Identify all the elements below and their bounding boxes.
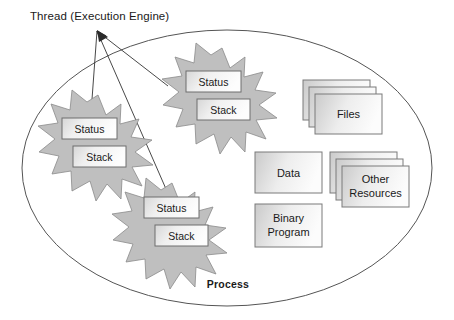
stack-box-label: Stack — [168, 230, 195, 242]
stack-box-label: Stack — [210, 104, 237, 116]
binary-program-label-line2: Program — [267, 226, 309, 238]
resource-other-resources: Other Resources — [330, 152, 409, 207]
resource-files: Files — [303, 80, 382, 134]
status-box-label: Status — [157, 202, 187, 214]
thread-title-label: Thread (Execution Engine) — [30, 10, 169, 22]
diagram-canvas: Status Stack Status Stack Status Stack — [0, 0, 454, 320]
status-box-label: Status — [199, 76, 229, 88]
process-thread-diagram: Status Stack Status Stack Status Stack — [0, 0, 454, 320]
stack-box-label: Stack — [86, 151, 113, 163]
status-box-label: Status — [75, 123, 105, 135]
process-label: Process — [207, 278, 249, 290]
binary-program-label-line1: Binary — [273, 212, 305, 224]
other-resources-label-line1: Other — [362, 173, 390, 185]
other-resources-label-line2: Resources — [349, 187, 402, 199]
resource-binary-program: Binary Program — [255, 204, 322, 247]
resource-data: Data — [255, 152, 322, 193]
data-label: Data — [277, 167, 301, 179]
files-label: Files — [337, 108, 361, 120]
leader-arrowhead — [97, 30, 108, 42]
